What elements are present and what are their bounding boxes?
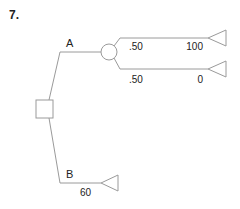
terminal-triangle-upper bbox=[208, 30, 226, 46]
branch-b-label: B bbox=[66, 168, 73, 180]
terminal-triangle-b bbox=[101, 175, 118, 191]
payoff-upper: 100 bbox=[186, 41, 203, 52]
prob-lower: .50 bbox=[129, 74, 143, 85]
problem-number: 7. bbox=[9, 8, 19, 22]
outcome-lower-line bbox=[114, 58, 208, 69]
terminal-triangle-lower bbox=[208, 61, 226, 77]
chance-node-circle bbox=[101, 44, 117, 60]
branch-b-line bbox=[49, 118, 101, 183]
prob-upper: .50 bbox=[129, 41, 143, 52]
decision-node-square bbox=[36, 100, 53, 118]
payoff-lower: 0 bbox=[197, 74, 203, 85]
payoff-b: 60 bbox=[80, 187, 92, 198]
branch-a-label: A bbox=[66, 37, 74, 49]
decision-tree: 7. A .50 100 .50 0 B 60 bbox=[0, 0, 240, 209]
branch-a-line bbox=[49, 52, 101, 100]
